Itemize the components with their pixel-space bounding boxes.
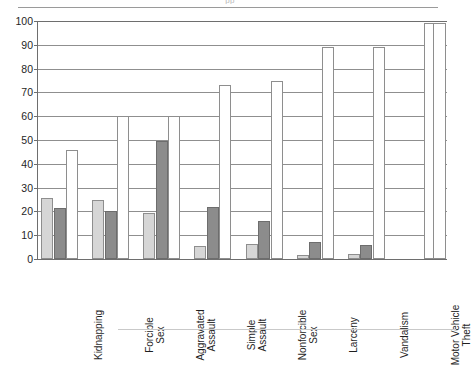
bar-series-3 bbox=[271, 81, 283, 260]
x-axis-label: Aggravated Assault bbox=[196, 300, 217, 369]
y-tick-label-0: 0 bbox=[27, 254, 33, 265]
bar-series-1 bbox=[297, 255, 309, 259]
y-tick-label-100: 100 bbox=[15, 16, 33, 27]
y-tick-mark-0 bbox=[34, 259, 38, 260]
bar-series-2 bbox=[105, 211, 117, 259]
x-axis-label: Larceny bbox=[349, 300, 360, 369]
y-tick-label-70: 70 bbox=[21, 87, 33, 98]
bar-series-1 bbox=[194, 246, 206, 259]
y-tick-label-60: 60 bbox=[21, 111, 33, 122]
bar-series-3 bbox=[219, 85, 231, 259]
bar-group bbox=[89, 21, 140, 259]
bar-series-1 bbox=[348, 254, 360, 259]
bar-series-3 bbox=[322, 47, 334, 259]
y-tick-label-20: 20 bbox=[21, 206, 33, 217]
bar-series-2 bbox=[156, 141, 168, 259]
bar-group bbox=[38, 21, 89, 259]
bar-series-1 bbox=[246, 244, 258, 259]
bar-series-3 bbox=[373, 47, 385, 259]
y-tick-label-80: 80 bbox=[21, 63, 33, 74]
bar-series-2 bbox=[309, 242, 321, 259]
bar-series-3 bbox=[117, 116, 129, 259]
bar-series-2 bbox=[360, 245, 372, 259]
bottom-divider-rule bbox=[118, 329, 456, 330]
plot-area: 0102030405060708090100 bbox=[37, 21, 447, 260]
x-axis-label: Forcible Sex bbox=[145, 300, 166, 369]
bar-group bbox=[243, 21, 294, 259]
bar-series-1 bbox=[143, 213, 155, 259]
y-tick-label-30: 30 bbox=[21, 182, 33, 193]
bar-right-edge-open-bar bbox=[433, 23, 446, 259]
bar-group bbox=[191, 21, 242, 259]
x-axis-label: Nonforcible Sex bbox=[298, 300, 319, 369]
bar-group bbox=[294, 21, 345, 259]
y-tick-label-10: 10 bbox=[21, 230, 33, 241]
y-tick-label-50: 50 bbox=[21, 135, 33, 146]
y-tick-label-90: 90 bbox=[21, 40, 33, 51]
bar-group bbox=[345, 21, 396, 259]
bar-series-2 bbox=[54, 208, 66, 259]
x-axis-label: Vandalism bbox=[400, 300, 411, 369]
bar-series-3 bbox=[66, 150, 78, 259]
bar-group bbox=[140, 21, 191, 259]
clipped-title-text: pp bbox=[180, 0, 280, 4]
bar-series-2 bbox=[258, 221, 270, 259]
bar-series-3 bbox=[168, 116, 180, 259]
bar-series-1 bbox=[92, 200, 104, 260]
title-divider-rule bbox=[18, 7, 438, 8]
x-axis-label: Simple Assault bbox=[247, 300, 268, 369]
bar-series-2 bbox=[207, 207, 219, 259]
x-axis-label: Motor Vehicle Theft bbox=[451, 300, 472, 369]
bar-series-1 bbox=[41, 198, 53, 259]
y-tick-label-40: 40 bbox=[21, 159, 33, 170]
x-axis-label: Kidnapping bbox=[94, 300, 105, 369]
